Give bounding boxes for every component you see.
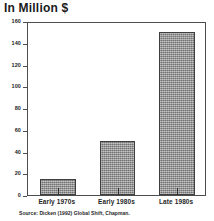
x-axis-tick-label: Early 1970s xyxy=(27,198,87,205)
y-axis-tick-label: 40 xyxy=(15,149,21,155)
y-axis-tick-label: 120 xyxy=(12,62,21,68)
y-axis-tick-label: 160 xyxy=(12,18,21,24)
y-axis: 020406080100120140160 xyxy=(0,22,27,196)
x-axis-tick-label: Early 1980s xyxy=(87,198,147,205)
chart-figure: In Million $ 020406080100120140160 Early… xyxy=(0,0,214,221)
x-axis-tick-mark xyxy=(58,188,59,195)
y-axis-tick-mark xyxy=(23,196,27,197)
y-axis-tick-label: 80 xyxy=(15,105,21,111)
y-axis-tick-label: 20 xyxy=(15,170,21,176)
y-axis-tick-label: 60 xyxy=(15,127,21,133)
x-axis-tick-label: Late 1980s xyxy=(146,198,206,205)
bar xyxy=(100,141,136,195)
plot-area xyxy=(28,23,205,195)
chart-title: In Million $ xyxy=(4,1,68,15)
y-axis-tick-label: 0 xyxy=(18,192,21,198)
source-note: Source: Dicken (1992) Global Shift, Chap… xyxy=(19,210,130,216)
bar xyxy=(159,32,195,195)
x-axis-tick-mark xyxy=(177,188,178,195)
x-axis-tick-mark xyxy=(118,188,119,195)
plot-frame xyxy=(27,22,206,196)
x-axis: Early 1970sEarly 1980sLate 1980s xyxy=(27,198,206,208)
y-axis-tick-label: 100 xyxy=(12,83,21,89)
y-axis-tick-label: 140 xyxy=(12,40,21,46)
